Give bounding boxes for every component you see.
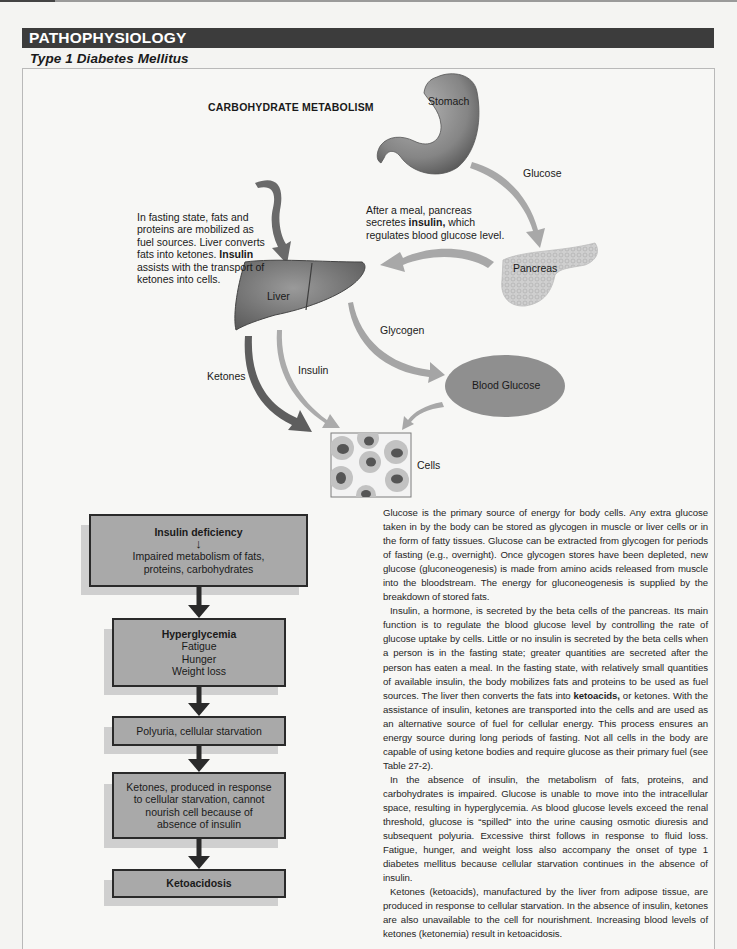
flow-box-hyperglycemia: Hyperglycemia Fatigue Hunger Weight loss [112,618,286,687]
flow-arrow-down-icon [188,839,210,870]
flow-box-polyuria: Polyuria, cellular starvation [112,716,286,746]
meal-note: After a meal, pancreas secretes insulin,… [366,204,504,241]
blood-glucose-to-cells-arrow [402,402,444,430]
stomach-icon [377,74,479,174]
paragraph-absence-of-insulin: In the absence of insulin, the metabolis… [383,773,708,885]
label-glycogen: Glycogen [380,324,424,336]
flow-box-ketoacidosis: Ketoacidosis [112,869,286,898]
body-text: Glucose is the primary source of energy … [383,506,708,941]
diagram-title: CARBOHYDRATE METABOLISM [208,101,374,113]
paragraph-ketones: Ketones (ketoacids), manufactured by the… [383,885,708,941]
cells-icon [329,427,411,505]
flow-box-ketones: Ketones, produced in response to cellula… [112,772,286,839]
label-glucose: Glucose [523,167,562,179]
flow-arrow-down-icon [188,746,210,773]
label-stomach: Stomach [428,95,469,107]
flow-box-insulin-deficiency: Insulin deficiency ↓ Impaired metabolism… [89,514,308,587]
paragraph-insulin: Insulin, a hormone, is secreted by the b… [383,604,708,773]
label-ketones: Ketones [207,370,246,382]
label-cells: Cells [417,459,440,471]
fasting-note: In fasting state, fats and proteins are … [137,211,265,285]
label-blood-glucose: Blood Glucose [472,379,540,391]
label-insulin: Insulin [298,364,328,376]
label-pancreas: Pancreas [513,262,557,274]
pancreas-icon [502,243,598,306]
flow-arrow-down-icon [188,587,210,619]
paragraph-glucose: Glucose is the primary source of energy … [383,506,708,604]
down-arrow-icon: ↓ [195,538,202,550]
insulin-secretion-arrow [380,249,494,272]
glycogen-arrow [348,302,445,383]
diagram-graphics [0,0,737,520]
carbohydrate-metabolism-diagram: CARBOHYDRATE METABOLISM Stomach Glucose … [0,0,737,520]
flow-arrow-down-icon [188,687,210,717]
label-liver: Liver [267,290,290,302]
